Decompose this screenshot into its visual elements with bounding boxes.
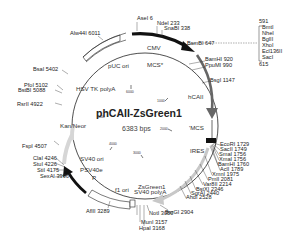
site-hpai: HpaI 3168 (139, 225, 165, 231)
plasmid-size: 6383 bps (122, 125, 151, 133)
site-bsmbi: BsmBI 647 (187, 40, 214, 46)
site-noti: NotI 3050 (149, 210, 173, 216)
feature-label-f1-ori: f1 ori (115, 186, 129, 193)
mcs-box: 591 BmtI NheI BglII XhoI Ecl136II SacI 6… (259, 18, 283, 67)
feature-label-psv40e: PSV40e (80, 166, 103, 173)
feature-mcs-block (206, 138, 216, 143)
tick-1000: 1000 (157, 99, 165, 103)
plasmid-map: pUC ori CMV MCS* hCAII 'MCS IRES ZsGreen… (0, 0, 303, 248)
site-rsrii: RsrII 4922 (17, 101, 43, 107)
site-alw44i: Alw44I 6011 (70, 30, 100, 36)
feature-label-kan-neo: Kan/Neor (60, 122, 86, 129)
feature-label-hcaii: hCAII (188, 93, 204, 100)
site-fspi: FspI 4507 (22, 143, 47, 149)
tick-3000: 3000 (133, 151, 141, 155)
feature-label-cmv: CMV (147, 44, 162, 51)
site-ahdi: AhdI 2528 (186, 194, 212, 200)
feature-label-p: P (92, 174, 96, 181)
feature-psv40e-arrow (68, 172, 86, 193)
plasmid-name: phCAII-ZsGreen1 (96, 107, 182, 119)
tick-4000: 4000 (109, 142, 117, 146)
site-snabi: SnaBI 338 (164, 25, 190, 31)
feature-label-mcs-top: MCS* (147, 61, 164, 68)
tick-2000: 2000 (160, 127, 168, 131)
site-pfoi: PfoI 5102 (24, 82, 48, 88)
feature-label-puc-ori: pUC ori (108, 62, 129, 69)
feature-label-sv40-ori: SV40 ori (80, 155, 104, 162)
tick-6000: 6000 (126, 90, 134, 94)
site-asei: AseI 6 (137, 15, 153, 21)
mcs-end: 615 (259, 61, 268, 67)
site-ppumi: PpuMI 990 (205, 62, 232, 68)
feature-label-sv40-polya: SV40 polyA (134, 188, 167, 195)
mcs-enzyme-saci: SacI (262, 54, 274, 60)
site-bsai: BsaI 5402 (33, 66, 58, 72)
site-sexai: SexAI 3996 (40, 173, 69, 179)
feature-label-hsv-tk-polya: HSV TK polyA (76, 85, 116, 92)
site-bsgi: BsgI 1147 (210, 77, 235, 83)
feature-label-mcs-right: 'MCS (189, 124, 204, 131)
site-aflii: AflII 3289 (86, 208, 110, 214)
tick-5000: 5000 (97, 115, 105, 119)
feature-label-ires: IRES (190, 147, 204, 154)
